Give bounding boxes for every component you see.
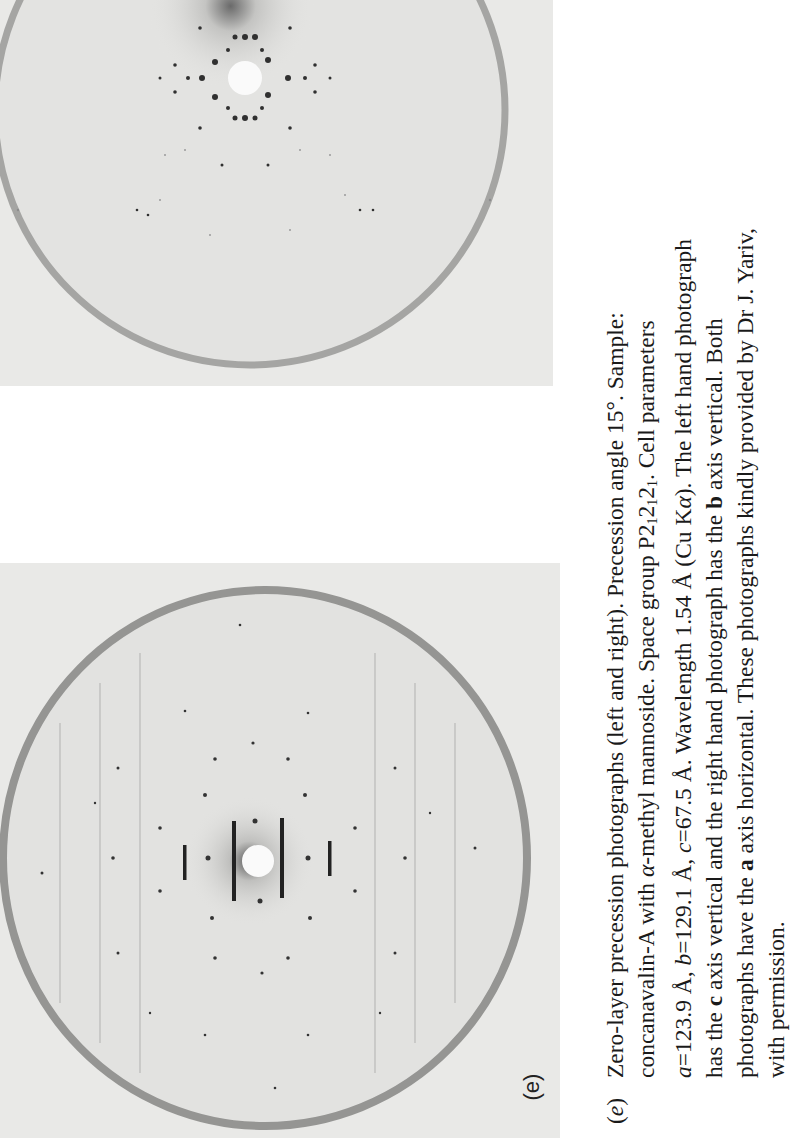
caption-tag: (e) [600,1078,792,1124]
precession-photograph-right [0,0,553,386]
caption-line-6: with permission. [761,14,792,1078]
caption-line-4: has the c axis vertical and the right ha… [699,14,730,1078]
panel-label: (e) [517,1072,547,1102]
caption-line-2: concanavalin-A with α-methyl mannoside. … [631,14,668,1078]
diffraction-pattern-bottom [0,563,560,1138]
figure-caption-region: (e) Zero-layer precession photographs (l… [590,0,787,1138]
caption-line-1: Zero-layer precession photographs (left … [600,14,631,1078]
caption-line-3: a=123.9 Å, b=129.1 Å, c=67.5 Å. Waveleng… [668,14,699,1078]
diffraction-pattern-top [0,0,553,386]
figure-caption: (e) Zero-layer precession photographs (l… [594,14,784,1124]
precession-photograph-left [0,563,560,1138]
caption-line-5: photographs have the a axis horizontal. … [730,14,761,1078]
